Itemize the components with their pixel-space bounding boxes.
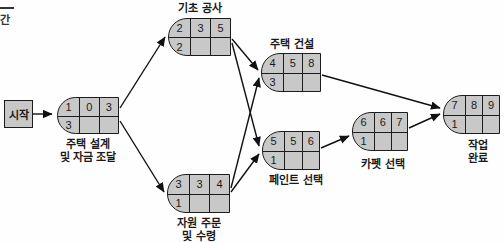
node-cell: 3	[190, 19, 210, 37]
node-label-house-construction: 주택 건설	[270, 38, 313, 51]
edge-foundation-construction	[232, 39, 258, 70]
node-cell-empty	[283, 73, 302, 92]
node-cell-empty	[465, 115, 482, 134]
legend-fragment-text: 간	[0, 11, 10, 27]
edge-design-foundation	[120, 37, 165, 108]
edge-design-resource	[120, 121, 164, 192]
node-label-foundation-work: 기초 공사	[178, 2, 221, 15]
edge-construction-complete	[322, 75, 440, 108]
node-cell: 3	[99, 98, 119, 116]
node-cell-empty	[284, 151, 302, 170]
node-cell-empty	[210, 37, 230, 55]
edge-paint-carpet	[321, 136, 349, 148]
start-box: 시작	[4, 100, 33, 128]
network-diagram: 간 시작 1 0 3 3 주택 설계 및 자금 조달 2 3 5 2 기초 공사…	[0, 0, 504, 243]
node-cell-empty	[99, 116, 119, 134]
node-cell: 8	[302, 54, 321, 73]
node-cell-empty	[209, 194, 229, 213]
node-cell-empty	[79, 116, 99, 134]
node-cell: 6	[302, 132, 320, 151]
node-paint-selection: 5 5 6 1	[262, 131, 320, 170]
node-work-complete: 7 8 9 1	[443, 95, 500, 134]
node-label-house-design: 주택 설계 및 자금 조달	[60, 138, 116, 164]
node-cell: 7	[391, 113, 408, 132]
node-house-design: 1 0 3 3	[57, 97, 119, 134]
node-label-resource-order: 자원 주문 및 수령	[177, 217, 220, 243]
node-label-carpet-selection: 카펫 선택	[361, 158, 404, 171]
node-cell: 5	[283, 54, 302, 73]
node-house-construction: 4 5 8 3	[261, 53, 321, 92]
node-cell-empty	[190, 37, 210, 55]
edge-carpet-complete	[409, 114, 440, 128]
node-label-paint-selection: 페인트 선택	[269, 174, 322, 187]
node-foundation-work: 2 3 5 2	[168, 18, 231, 56]
node-cell: 9	[482, 96, 499, 115]
node-cell-empty	[189, 194, 209, 213]
node-cell-empty	[391, 132, 408, 151]
node-cell: 0	[79, 98, 99, 116]
node-resource-order: 3 3 4 1	[167, 174, 230, 213]
node-carpet-selection: 6 6 7 1	[352, 112, 408, 151]
node-cell: 8	[465, 96, 482, 115]
node-cell-empty	[302, 151, 320, 170]
node-cell: 5	[284, 132, 302, 151]
node-cell: 5	[210, 19, 230, 37]
node-cell-empty	[302, 73, 321, 92]
legend-fragment-line	[0, 7, 14, 9]
node-label-work-complete: 작업 완료	[465, 139, 491, 165]
node-cell: 4	[209, 175, 229, 194]
node-cell: 6	[374, 113, 391, 132]
node-cell-empty	[482, 115, 499, 134]
node-cell: 3	[189, 175, 209, 194]
node-cell-empty	[374, 132, 391, 151]
